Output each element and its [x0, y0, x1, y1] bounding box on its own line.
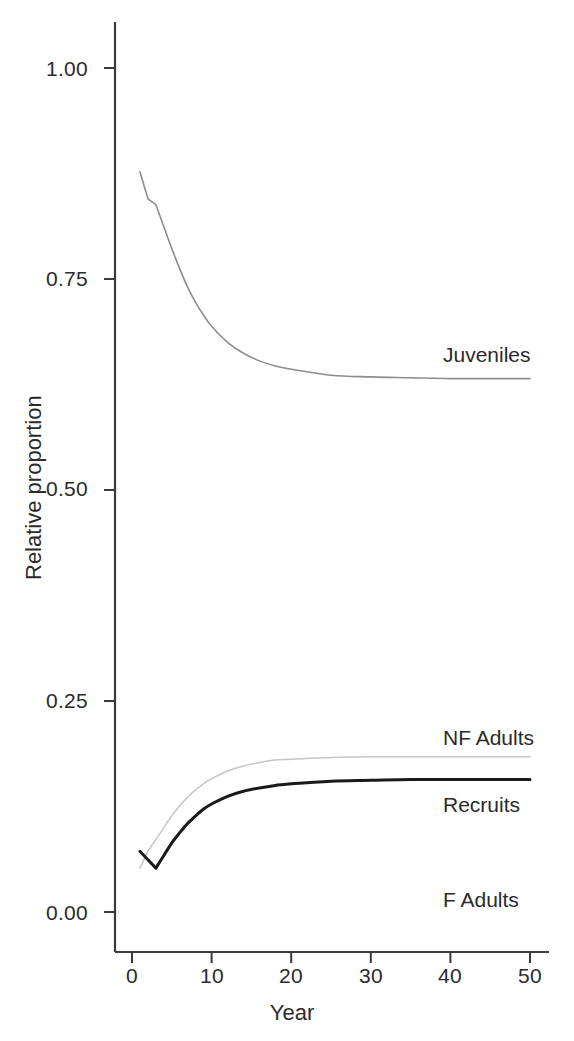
x-tick-label-0: 0 — [112, 964, 152, 988]
y-tick-label-025: 0.25 — [26, 689, 88, 713]
x-tick-label-40: 40 — [430, 964, 470, 988]
axes-group — [104, 22, 549, 963]
series-label-juveniles: Juveniles — [443, 343, 531, 367]
x-axis-ticks — [132, 952, 530, 963]
series-label-recruits: Recruits — [443, 793, 520, 817]
y-axis-ticks — [104, 68, 115, 912]
chart-figure: 1.00 0.75 0.50 0.25 0.00 0 10 20 30 40 5… — [0, 0, 574, 1041]
x-tick-label-30: 30 — [351, 964, 391, 988]
y-tick-label-1: 1.00 — [26, 57, 88, 81]
line-chart-canvas — [0, 0, 574, 1041]
x-tick-label-20: 20 — [271, 964, 311, 988]
series-paths-group — [140, 172, 530, 868]
x-tick-label-10: 10 — [192, 964, 232, 988]
x-axis-title: Year — [270, 1000, 314, 1026]
y-tick-label-000: 0.00 — [26, 901, 88, 925]
series-label-f-adults: F Adults — [443, 888, 519, 912]
x-tick-label-50: 50 — [510, 964, 550, 988]
y-tick-label-075: 0.75 — [26, 267, 88, 291]
y-axis-title: Relative proportion — [21, 395, 47, 580]
series-label-nf-adults: NF Adults — [443, 726, 534, 750]
